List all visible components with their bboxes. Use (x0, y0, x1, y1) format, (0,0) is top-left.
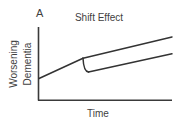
panel-label: A (36, 7, 44, 19)
y-axis-title-line1: Worsening (8, 40, 19, 88)
chart-title: Shift Effect (75, 12, 123, 23)
y-axis-title-line2: Dementia (22, 42, 33, 85)
shift-effect-chart: A Shift Effect Worsening Dementia Time (0, 0, 176, 123)
figure-panel-a: A Shift Effect Worsening Dementia Time (0, 0, 176, 123)
x-axis-title: Time (87, 108, 109, 119)
